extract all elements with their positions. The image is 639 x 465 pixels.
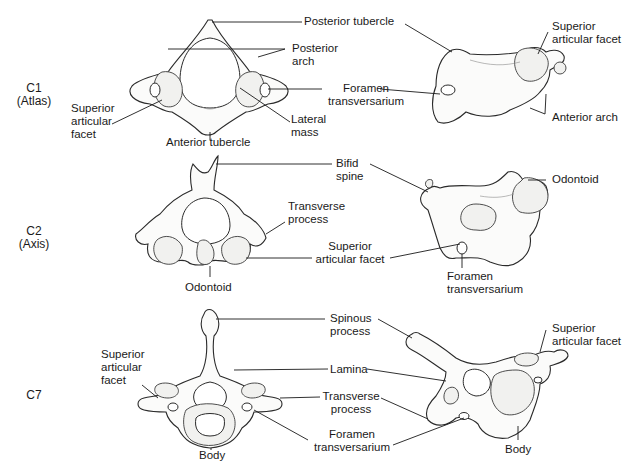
c1-superior-view — [130, 20, 288, 135]
label-c1-foramen-transversarium: Foramentransversarium — [318, 82, 414, 108]
vertebra-name: (Atlas) — [17, 94, 52, 108]
label-c2-foramen-transversarium: Foramentransversarium — [447, 270, 523, 296]
vertebra-name: (Axis) — [19, 237, 50, 251]
vertebra-level: C7 — [26, 388, 41, 402]
label-c1-posterior-arch: Posteriorarch — [292, 42, 338, 68]
label-c2-bifid-spine: Bifidspine — [336, 157, 364, 183]
label-c7-spinous-process: Spinousprocess — [330, 312, 372, 338]
c2-superior-view — [136, 156, 266, 265]
vertebra-level: C1 — [26, 81, 41, 95]
label-c1-anterior-tubercle: Anterior tubercle — [166, 136, 250, 149]
label-c2-transverse-process: Transverseprocess — [288, 200, 345, 226]
label-c7-body: Body — [199, 449, 225, 462]
label-c7-superior-articular-facet: Superiorarticularfacet — [101, 348, 144, 387]
label-c2-superior-articular-facet: Superiorarticular facet — [310, 240, 390, 266]
label-c1-anterior-arch: Anterior arch — [552, 111, 618, 124]
label-c7-transverse-process: Transverseprocess — [318, 390, 384, 416]
c1-lateral-view — [433, 48, 567, 124]
label-c7-side-body: Body — [505, 443, 531, 456]
vertebra-level: C2 — [26, 224, 41, 238]
label-c7-lamina: Lamina — [330, 363, 368, 376]
label-c1-posterior-tubercle: Posterior tubercle — [304, 15, 394, 28]
row-label-c7: C7 — [14, 389, 54, 402]
label-c1-superior-articular-facet: Superiorarticularfacet — [71, 102, 114, 141]
label-c1-lateral-mass: Lateralmass — [291, 113, 326, 139]
c7-lateral-view — [406, 333, 568, 439]
label-c7-side-superior-articular-facet: Superiorarticular facet — [552, 322, 621, 348]
row-label-c1: C1 (Atlas) — [14, 82, 54, 108]
label-c2-side-odontoid: Odontoid — [552, 173, 599, 186]
label-c7-foramen-transversarium: Foramentransversarium — [310, 428, 394, 454]
row-label-c2: C2 (Axis) — [14, 225, 54, 251]
label-c1-side-superior-articular-facet: Superiorarticular facet — [552, 20, 621, 46]
c7-superior-view — [138, 310, 282, 449]
c2-lateral-view — [421, 171, 548, 265]
label-c2-odontoid: Odontoid — [185, 281, 232, 294]
